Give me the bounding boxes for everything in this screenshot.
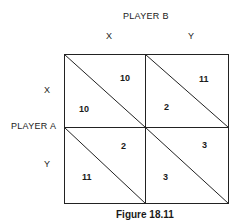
cell-xy-payoff-b: 11: [199, 74, 209, 84]
payoff-matrix-grid: [0, 0, 243, 224]
figure-caption: Figure 18.11: [116, 209, 174, 220]
cell-xx-payoff-b: 10: [120, 73, 130, 83]
cell-yx-payoff-b: 2: [121, 141, 126, 151]
cell-yy-payoff-a: 3: [163, 172, 168, 182]
cell-xy-payoff-a: 2: [164, 102, 169, 112]
cell-xx-payoff-a: 10: [79, 104, 89, 114]
cell-yy-payoff-b: 3: [202, 140, 207, 150]
cell-yx-payoff-a: 11: [82, 172, 92, 182]
